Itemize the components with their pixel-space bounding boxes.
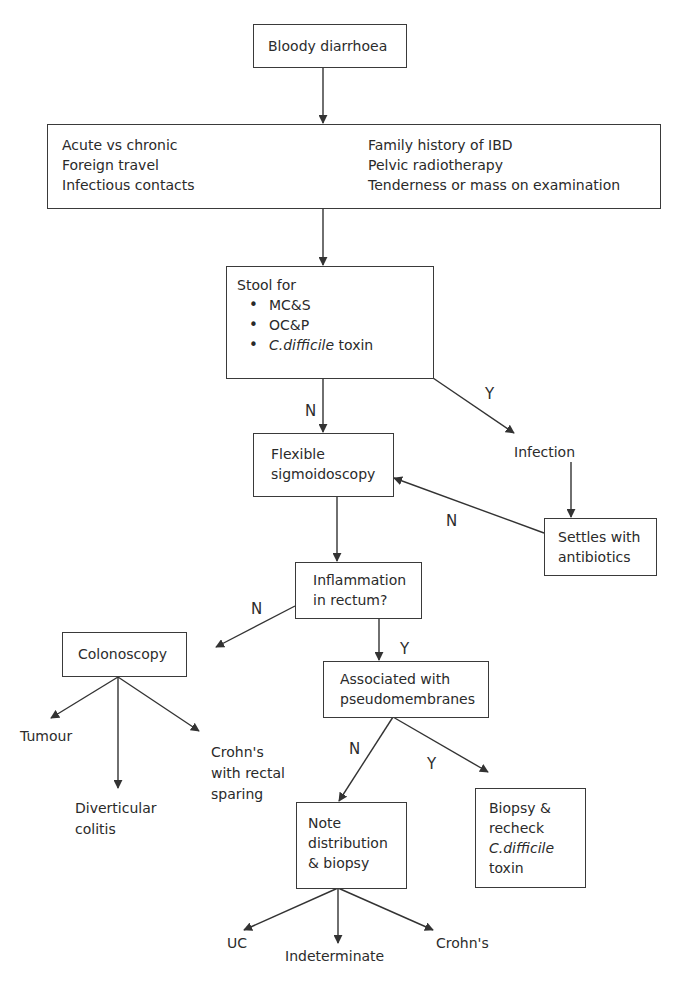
node-text: Diverticular bbox=[75, 798, 157, 819]
node-text: Colonoscopy bbox=[78, 644, 167, 664]
cdiff-italic: C.difficile bbox=[489, 840, 554, 856]
history-item: Family history of IBD bbox=[368, 135, 620, 155]
node-text: & biopsy bbox=[308, 853, 388, 873]
edge-label-inflammation-no: N bbox=[251, 600, 262, 618]
node-text: Biopsy & bbox=[489, 798, 554, 818]
history-left-column: Acute vs chronic Foreign travel Infectio… bbox=[62, 135, 195, 195]
node-history-criteria: Acute vs chronic Foreign travel Infectio… bbox=[47, 124, 661, 209]
node-text: Settles with bbox=[558, 527, 640, 547]
stool-item-cdiff: C.difficile toxin bbox=[237, 335, 373, 355]
stool-title: Stool for bbox=[237, 275, 373, 295]
node-indeterminate: Indeterminate bbox=[285, 946, 384, 966]
node-stool-tests: Stool for MC&S OC&P C.difficile toxin bbox=[226, 266, 434, 379]
cdiff-rest: toxin bbox=[334, 337, 373, 353]
history-item: Foreign travel bbox=[62, 155, 195, 175]
node-note-distribution-biopsy: Note distribution & biopsy bbox=[296, 802, 407, 889]
stool-item-mcs: MC&S bbox=[237, 295, 373, 315]
node-text: with rectal bbox=[211, 763, 285, 784]
history-item: Tenderness or mass on examination bbox=[368, 175, 620, 195]
edge-colonoscopy-crohns-rectal bbox=[118, 677, 199, 731]
history-item: Infectious contacts bbox=[62, 175, 195, 195]
flowchart-bloody-diarrhoea: Bloody diarrhoea Acute vs chronic Foreig… bbox=[0, 0, 684, 996]
node-text: Inflammation bbox=[313, 570, 406, 590]
edge-associated-note bbox=[339, 717, 393, 801]
node-settles-with-antibiotics: Settles with antibiotics bbox=[544, 518, 657, 576]
edge-label-associated-no: N bbox=[349, 740, 360, 758]
cdiff-italic: C.difficile bbox=[269, 337, 334, 353]
node-tumour: Tumour bbox=[20, 726, 72, 746]
node-text: Flexible bbox=[271, 444, 375, 464]
node-text: Associated with bbox=[340, 669, 475, 689]
node-crohns: Crohn's bbox=[436, 933, 489, 953]
node-text: colitis bbox=[75, 819, 157, 840]
edge-label-stool-yes: Y bbox=[485, 385, 494, 403]
history-item: Acute vs chronic bbox=[62, 135, 195, 155]
node-text: toxin bbox=[489, 858, 554, 878]
edge-colonoscopy-tumour bbox=[51, 677, 118, 718]
edge-label-settles-no: N bbox=[446, 512, 457, 530]
node-text: sigmoidoscopy bbox=[271, 464, 375, 484]
node-colonoscopy: Colonoscopy bbox=[62, 632, 187, 677]
node-diverticular-colitis: Diverticular colitis bbox=[75, 798, 157, 840]
node-text: Crohn's bbox=[211, 742, 285, 763]
edge-stool-infection bbox=[433, 378, 514, 433]
node-text: pseudomembranes bbox=[340, 689, 475, 709]
history-item: Pelvic radiotherapy bbox=[368, 155, 620, 175]
edge-label-inflammation-yes: Y bbox=[400, 640, 409, 658]
node-crohns-rectal-sparing: Crohn's with rectal sparing bbox=[211, 742, 285, 805]
node-text: antibiotics bbox=[558, 547, 640, 567]
node-associated-pseudomembranes: Associated with pseudomembranes bbox=[323, 661, 489, 718]
edge-settles-flexsig bbox=[394, 478, 544, 533]
stool-item-ocp: OC&P bbox=[237, 315, 373, 335]
edge-label-associated-yes: Y bbox=[427, 755, 436, 773]
node-bloody-diarrhoea: Bloody diarrhoea bbox=[253, 24, 407, 68]
node-text: in rectum? bbox=[313, 590, 406, 610]
node-text: sparing bbox=[211, 784, 285, 805]
node-biopsy-recheck: Biopsy & recheck C.difficile toxin bbox=[475, 788, 586, 888]
node-text: distribution bbox=[308, 833, 388, 853]
node-text: C.difficile bbox=[489, 838, 554, 858]
node-inflammation-in-rectum: Inflammation in rectum? bbox=[295, 562, 422, 619]
edge-note-uc bbox=[244, 888, 338, 930]
edge-associated-biopsy bbox=[393, 717, 488, 772]
edge-label-stool-no: N bbox=[305, 402, 316, 420]
node-text: Bloody diarrhoea bbox=[268, 36, 387, 56]
node-uc: UC bbox=[227, 933, 247, 953]
node-text: Note bbox=[308, 813, 388, 833]
node-flexible-sigmoidoscopy: Flexible sigmoidoscopy bbox=[253, 433, 394, 497]
node-text: recheck bbox=[489, 818, 554, 838]
history-right-column: Family history of IBD Pelvic radiotherap… bbox=[368, 135, 620, 195]
node-infection: Infection bbox=[514, 442, 575, 462]
edge-note-crohns bbox=[338, 888, 433, 930]
